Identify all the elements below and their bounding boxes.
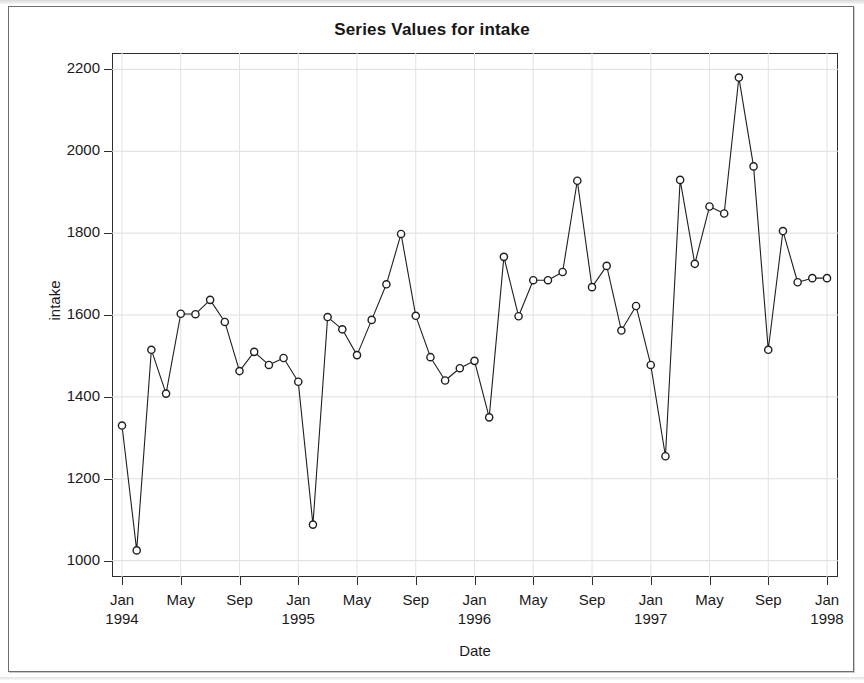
data-point-marker (691, 260, 698, 267)
data-point-marker (632, 302, 639, 309)
chart-title: Series Values for intake (0, 20, 864, 40)
x-tick-month: May (695, 591, 723, 608)
x-tick-month: Jan (110, 591, 134, 608)
y-tick-label: 1200 (30, 469, 100, 486)
y-tick-label: 1400 (30, 387, 100, 404)
x-tick-mark (240, 577, 241, 585)
y-axis-label: intake (46, 241, 63, 361)
data-point-marker (779, 227, 786, 234)
x-tick-mark (533, 577, 534, 585)
data-point-marker (544, 277, 551, 284)
data-point-marker (559, 268, 566, 275)
data-point-marker (412, 312, 419, 319)
x-tick-mark (827, 577, 828, 585)
data-point-marker (471, 357, 478, 364)
data-point-marker (133, 547, 140, 554)
x-tick-mark (710, 577, 711, 585)
data-point-marker (427, 354, 434, 361)
data-point-marker (207, 296, 214, 303)
data-point-marker (809, 275, 816, 282)
data-point-marker (192, 311, 199, 318)
y-tick-label: 2200 (30, 59, 100, 76)
x-tick-month: May (343, 591, 371, 608)
x-tick-mark (416, 577, 417, 585)
x-tick-year: 1997 (611, 609, 691, 628)
data-point-marker (353, 352, 360, 359)
data-point-marker (280, 354, 287, 361)
data-point-marker (677, 176, 684, 183)
x-tick-mark (357, 577, 358, 585)
x-tick-year: 1998 (787, 609, 864, 628)
data-point-marker (177, 310, 184, 317)
data-point-marker (823, 275, 830, 282)
data-point-marker (397, 230, 404, 237)
data-point-marker (236, 367, 243, 374)
data-point-marker (162, 390, 169, 397)
data-point-marker (750, 163, 757, 170)
x-tick-month: Jan (639, 591, 663, 608)
data-point-marker (221, 318, 228, 325)
x-tick-mark (298, 577, 299, 585)
data-point-marker (456, 365, 463, 372)
x-tick-label: Jan1998 (787, 590, 864, 628)
data-point-marker (530, 277, 537, 284)
data-point-marker (500, 253, 507, 260)
y-tick-label: 1600 (30, 305, 100, 322)
x-tick-year: 1994 (82, 609, 162, 628)
x-tick-month: Sep (755, 591, 782, 608)
data-point-marker (706, 203, 713, 210)
x-axis-label: Date (112, 642, 838, 659)
data-point-marker (515, 313, 522, 320)
data-point-marker (486, 414, 493, 421)
x-tick-month: May (167, 591, 195, 608)
x-tick-mark (475, 577, 476, 585)
x-tick-month: Sep (226, 591, 253, 608)
data-point-marker (588, 284, 595, 291)
x-tick-mark (592, 577, 593, 585)
data-point-marker (368, 316, 375, 323)
data-point-marker (735, 74, 742, 81)
data-point-marker (383, 281, 390, 288)
x-tick-month: May (519, 591, 547, 608)
data-point-marker (574, 177, 581, 184)
x-tick-month: Jan (462, 591, 486, 608)
data-point-marker (442, 377, 449, 384)
line-plot (112, 53, 838, 577)
x-tick-month: Jan (815, 591, 839, 608)
x-tick-mark (768, 577, 769, 585)
data-point-marker (295, 378, 302, 385)
x-tick-year: 1996 (435, 609, 515, 628)
data-point-marker (618, 327, 625, 334)
x-tick-mark (181, 577, 182, 585)
data-point-marker (603, 262, 610, 269)
data-point-marker (765, 346, 772, 353)
scan-artifact-top (0, 0, 864, 4)
x-tick-month: Sep (579, 591, 606, 608)
data-point-marker (118, 422, 125, 429)
data-point-marker (324, 313, 331, 320)
x-tick-mark (651, 577, 652, 585)
x-tick-month: Jan (286, 591, 310, 608)
data-point-marker (265, 361, 272, 368)
data-point-marker (721, 210, 728, 217)
y-tick-label: 2000 (30, 141, 100, 158)
x-tick-year: 1995 (258, 609, 338, 628)
data-point-marker (662, 453, 669, 460)
data-point-marker (647, 361, 654, 368)
x-tick-mark (122, 577, 123, 585)
data-point-marker (339, 326, 346, 333)
y-tick-label: 1800 (30, 223, 100, 240)
data-point-marker (251, 348, 258, 355)
data-point-marker (148, 346, 155, 353)
scan-artifact-bottom (0, 677, 864, 680)
x-tick-month: Sep (402, 591, 429, 608)
chart-screenshot: Series Values for intake intake 10001200… (0, 0, 864, 683)
y-tick-label: 1000 (30, 551, 100, 568)
data-point-marker (794, 279, 801, 286)
data-point-marker (309, 521, 316, 528)
